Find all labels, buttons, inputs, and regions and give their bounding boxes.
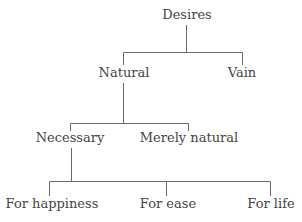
node-vain: Vain [228, 65, 256, 81]
node-merely-natural: Merely natural [140, 130, 238, 146]
node-natural: Natural [99, 65, 150, 81]
node-for-happiness: For happiness [6, 196, 99, 212]
node-for-life: For life [247, 196, 294, 212]
node-for-ease: For ease [140, 196, 196, 212]
tree-connectors [0, 0, 302, 222]
desires-tree-diagram: Desires Natural Vain Necessary Merely na… [0, 0, 302, 222]
node-desires: Desires [162, 7, 212, 23]
node-necessary: Necessary [36, 130, 105, 146]
